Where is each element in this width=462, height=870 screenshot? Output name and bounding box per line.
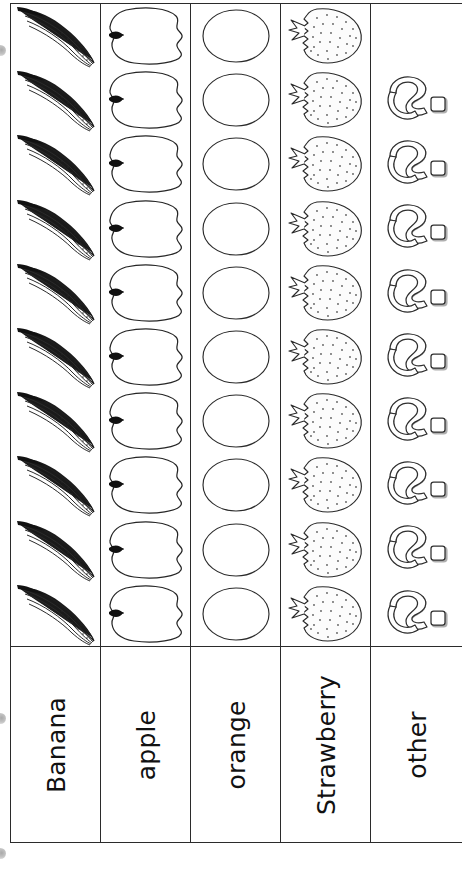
pictograph-cell (101, 197, 190, 261)
pictograph-cell (11, 68, 100, 132)
pictograph-cell (371, 451, 462, 515)
pictograph-cell (11, 325, 100, 389)
pictograph-cell (371, 130, 462, 194)
pictograph-cell (281, 261, 370, 325)
banana-icon (15, 583, 97, 645)
banana-icon (15, 326, 97, 388)
orange-icon (198, 586, 274, 642)
pictograph-cell (191, 68, 280, 132)
pictograph-column-other[interactable] (371, 4, 462, 646)
pictograph-cell (11, 197, 100, 261)
pictograph-cell (371, 259, 462, 323)
apple-icon (106, 263, 186, 323)
pictograph-cell (281, 197, 370, 261)
pictograph-column-strawberry[interactable] (281, 4, 371, 646)
banana-icon (15, 390, 97, 452)
label-cell-orange[interactable]: orange (191, 647, 281, 842)
banana-icon (15, 198, 97, 260)
orange-icon (198, 522, 274, 578)
pictograph-cell (191, 325, 280, 389)
column-label-other: other (402, 711, 431, 779)
pictograph-cell (11, 4, 100, 68)
banana-icon (15, 69, 97, 131)
pictograph-cell (11, 518, 100, 582)
pictograph-cell (281, 68, 370, 132)
strawberry-icon (287, 199, 365, 259)
pictograph-cell (101, 132, 190, 196)
pictograph-cell (281, 582, 370, 646)
question-mark-icon (382, 332, 452, 378)
pictograph-cell (371, 66, 462, 130)
column-label-orange: orange (221, 700, 250, 789)
pictograph-cell (101, 389, 190, 453)
question-mark-icon-stack (371, 4, 462, 646)
pictograph-cell (191, 453, 280, 517)
strawberry-icon-stack (281, 4, 370, 646)
question-mark-icon (382, 203, 452, 249)
pictograph-cell (281, 325, 370, 389)
label-cell-apple[interactable]: apple (101, 647, 191, 842)
banana-icon (15, 133, 97, 195)
orange-icon (198, 457, 274, 513)
orange-icon (198, 136, 274, 192)
orange-icon (198, 8, 274, 64)
pictograph-cell (371, 194, 462, 258)
apple-icon (106, 520, 186, 580)
question-mark-icon (382, 396, 452, 442)
strawberry-icon (287, 6, 365, 66)
pictograph-cell (191, 197, 280, 261)
orange-icon (198, 72, 274, 128)
banana-icon (15, 519, 97, 581)
pictograph-cell (11, 389, 100, 453)
question-mark-icon (382, 460, 452, 506)
orange-icon (198, 265, 274, 321)
pictograph-cell (101, 261, 190, 325)
orange-icon-stack (191, 4, 280, 646)
column-label-banana: Banana (41, 697, 70, 793)
column-label-strawberry: Strawberry (311, 675, 340, 815)
pictograph-cell (371, 387, 462, 451)
strawberry-icon (287, 327, 365, 387)
pictograph-cell (371, 644, 462, 646)
banana-icon (15, 262, 97, 324)
page-edge-artifact-top (0, 45, 6, 56)
pictograph-cell (191, 4, 280, 68)
pictograph-cell (101, 4, 190, 68)
page-edge-artifact-bottom (0, 848, 6, 859)
pictograph-cell (191, 518, 280, 582)
pictograph-cell (101, 582, 190, 646)
apple-icon (106, 134, 186, 194)
page-edge-artifact-middle (0, 713, 6, 724)
apple-icon (106, 6, 186, 66)
pictograph-cell (371, 515, 462, 579)
strawberry-icon (287, 520, 365, 580)
label-cell-other[interactable]: other (371, 647, 462, 842)
pictograph-column-banana[interactable] (11, 4, 101, 646)
pictograph-icon-row (11, 4, 462, 646)
pictograph-cell (191, 582, 280, 646)
question-mark-icon (382, 268, 452, 314)
pictograph-cell (101, 453, 190, 517)
strawberry-icon (287, 584, 365, 644)
label-cell-banana[interactable]: Banana (11, 647, 101, 842)
apple-icon (106, 327, 186, 387)
pictograph-cell (11, 582, 100, 646)
apple-icon-stack (101, 4, 190, 646)
column-label-apple: apple (131, 709, 160, 779)
pictograph-cell (281, 518, 370, 582)
strawberry-icon (287, 70, 365, 130)
pictograph-cell (101, 68, 190, 132)
pictograph-column-apple[interactable] (101, 4, 191, 646)
pictograph-column-orange[interactable] (191, 4, 281, 646)
label-cell-strawberry[interactable]: Strawberry (281, 647, 371, 842)
pictograph-cell (281, 453, 370, 517)
apple-icon (106, 391, 186, 451)
apple-icon (106, 199, 186, 259)
pictograph-cell (371, 323, 462, 387)
strawberry-icon (287, 263, 365, 323)
question-mark-icon (382, 589, 452, 635)
orange-icon (198, 201, 274, 257)
apple-icon (106, 455, 186, 515)
apple-icon (106, 584, 186, 644)
strawberry-icon (287, 455, 365, 515)
